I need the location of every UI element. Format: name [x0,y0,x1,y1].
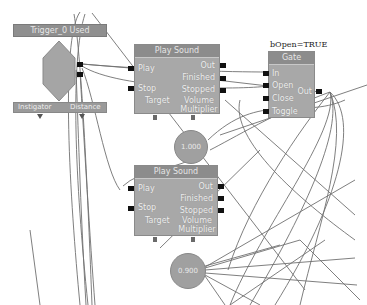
output-out-label: Out [198,182,213,191]
input-pin-open[interactable] [263,83,269,88]
kismet-canvas[interactable]: Trigger_0 Used Used Unused Instigator Di… [0,0,367,305]
var-pin-target[interactable] [153,115,157,120]
output-pin-finished[interactable] [220,76,226,81]
var-pin-target[interactable] [153,237,157,242]
input-open-label: Open [272,81,293,90]
input-pin-play[interactable] [128,66,134,71]
input-play-label: Play [138,184,155,193]
var-distance-label: Distance [70,103,101,112]
input-pin-close[interactable] [263,96,269,101]
output-finished-label: Finished [182,73,215,82]
play-sound-node-1[interactable]: Play Sound Play Stop Out Finished Stoppe… [134,44,220,114]
input-pin-stop[interactable] [128,206,134,211]
input-pin-play[interactable] [128,186,134,191]
output-out-label: Out [297,87,312,96]
node-title: Gate [269,52,314,65]
var-pin-instigator[interactable] [37,114,43,119]
output-pin-stopped[interactable] [218,208,224,213]
output-pin-out[interactable] [220,63,226,68]
input-in-label: In [272,69,279,78]
output-pin-stopped[interactable] [220,88,226,93]
input-toggle-label: Toggle [272,107,298,116]
output-pin-used[interactable] [77,62,83,67]
output-stopped-label: Stopped [180,206,213,215]
input-pin-toggle[interactable] [263,109,269,114]
input-play-label: Play [138,64,155,73]
gate-comment: bOpen=TRUE [270,40,327,49]
output-pin-unused[interactable] [77,72,83,77]
input-close-label: Close [272,94,294,103]
event-variable-bar: Instigator Distance [13,102,107,113]
float-variable-2[interactable]: 0.900 [170,253,206,289]
var-target-label: Target [145,96,170,105]
output-pin-out[interactable] [218,184,224,189]
input-pin-stop[interactable] [128,86,134,91]
output-pin-finished[interactable] [218,196,224,201]
output-pin-out[interactable] [316,89,322,94]
output-stopped-label: Stopped [182,85,215,94]
output-out-label: Out [200,61,215,70]
var-volume-label: Volume Multiplier [177,216,217,234]
var-target-label: Target [145,216,170,225]
var-pin-volume[interactable] [191,115,195,120]
output-finished-label: Finished [180,194,213,203]
input-pin-in[interactable] [263,71,269,76]
var-volume-label: Volume Multiplier [179,96,219,114]
input-stop-label: Stop [138,84,156,93]
gate-node[interactable]: Gate In Open Close Toggle Out [268,51,315,118]
var-pin-distance[interactable] [79,114,85,119]
float-variable-1[interactable]: 1.000 [174,130,208,164]
input-stop-label: Stop [138,203,156,212]
node-title: Play Sound [135,45,219,58]
event-hexagon[interactable] [41,40,77,102]
play-sound-node-2[interactable]: Play Sound Play Stop Out Finished Stoppe… [134,165,218,236]
var-instigator-label: Instigator [18,103,51,112]
node-title: Play Sound [135,166,217,179]
var-pin-volume[interactable] [191,237,195,242]
event-title[interactable]: Trigger_0 Used [13,24,107,37]
